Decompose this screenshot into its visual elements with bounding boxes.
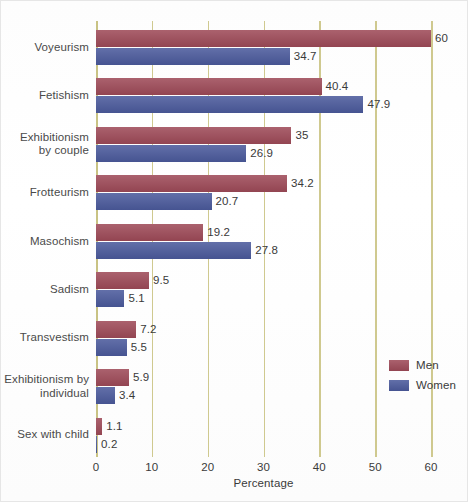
- category-label-line: by couple: [0, 144, 89, 158]
- legend-label-men: Men: [416, 359, 439, 371]
- category-label-line: Voyeurism: [0, 41, 89, 55]
- bar-men-0: [96, 30, 431, 47]
- category-label-line: Sex with child: [0, 428, 89, 442]
- category-label-5: Sadism: [0, 283, 89, 297]
- category-label-3: Frotteurism: [0, 186, 89, 200]
- category-label-line: Transvestism: [0, 331, 89, 345]
- value-label-men-1: 40.4: [326, 78, 349, 95]
- value-label-women-8: 0.2: [101, 436, 117, 453]
- category-label-line: Fetishism: [0, 89, 89, 103]
- x-tick-20: 20: [201, 461, 214, 473]
- value-label-women-2: 26.9: [250, 145, 273, 162]
- x-tick-0: 0: [93, 461, 100, 473]
- category-label-line: Exhibitionism: [0, 131, 89, 145]
- x-axis-title: Percentage: [96, 477, 431, 489]
- category-label-line: individual: [0, 387, 89, 401]
- legend-item-women: Women: [389, 379, 456, 391]
- category-label-8: Sex with child: [0, 428, 89, 442]
- legend-swatch-women-icon: [389, 380, 409, 391]
- x-tick-40: 40: [313, 461, 326, 473]
- value-label-women-6: 5.5: [131, 339, 147, 356]
- category-label-0: Voyeurism: [0, 41, 89, 55]
- value-label-women-3: 20.7: [216, 193, 239, 210]
- bar-women-7: [96, 387, 115, 404]
- legend-swatch-men-icon: [389, 360, 409, 371]
- value-label-men-5: 9.5: [153, 272, 169, 289]
- category-label-6: Transvestism: [0, 331, 89, 345]
- category-label-7: Exhibitionism byindividual: [0, 373, 89, 400]
- category-label-line: Sadism: [0, 283, 89, 297]
- bar-men-7: [96, 369, 129, 386]
- legend-label-women: Women: [416, 379, 456, 391]
- bar-men-1: [96, 78, 322, 95]
- value-label-women-4: 27.8: [255, 242, 278, 259]
- bar-men-6: [96, 321, 136, 338]
- category-label-4: Masochism: [0, 235, 89, 249]
- value-label-men-3: 34.2: [291, 175, 314, 192]
- value-label-men-8: 1.1: [106, 418, 122, 435]
- x-axis-ticks: 0102030405060: [96, 457, 431, 477]
- bar-men-2: [96, 127, 291, 144]
- bar-men-3: [96, 175, 287, 192]
- bar-men-8: [96, 418, 102, 435]
- bar-women-6: [96, 339, 127, 356]
- bar-women-8: [96, 436, 97, 453]
- value-label-men-0: 60: [435, 30, 448, 47]
- value-label-women-5: 5.1: [128, 290, 144, 307]
- legend-item-men: Men: [389, 359, 456, 371]
- bar-women-4: [96, 242, 251, 259]
- bar-women-5: [96, 290, 124, 307]
- bar-men-5: [96, 272, 149, 289]
- category-label-1: Fetishism: [0, 89, 89, 103]
- value-label-men-7: 5.9: [133, 369, 149, 386]
- bar-men-4: [96, 224, 203, 241]
- bar-women-1: [96, 96, 363, 113]
- bar-women-0: [96, 48, 290, 65]
- category-label-line: Frotteurism: [0, 186, 89, 200]
- category-label-line: Exhibitionism by: [0, 373, 89, 387]
- value-label-women-1: 47.9: [367, 96, 390, 113]
- chart-figure: VoyeurismFetishismExhibitionismby couple…: [0, 0, 468, 502]
- x-tick-10: 10: [145, 461, 158, 473]
- bar-women-3: [96, 193, 212, 210]
- value-label-men-6: 7.2: [140, 321, 156, 338]
- plot-area: 6034.740.447.93526.934.220.719.227.89.55…: [96, 21, 431, 457]
- category-label-line: Masochism: [0, 235, 89, 249]
- value-label-men-2: 35: [295, 127, 308, 144]
- x-tick-30: 30: [257, 461, 270, 473]
- x-tick-60: 60: [425, 461, 438, 473]
- value-label-women-7: 3.4: [119, 387, 135, 404]
- bar-women-2: [96, 145, 246, 162]
- gridline-50: [375, 21, 377, 457]
- value-label-women-0: 34.7: [294, 48, 317, 65]
- x-tick-50: 50: [369, 461, 382, 473]
- category-label-2: Exhibitionismby couple: [0, 131, 89, 158]
- category-axis: VoyeurismFetishismExhibitionismby couple…: [1, 21, 89, 457]
- value-label-men-4: 19.2: [207, 224, 230, 241]
- legend: Men Women: [389, 359, 456, 399]
